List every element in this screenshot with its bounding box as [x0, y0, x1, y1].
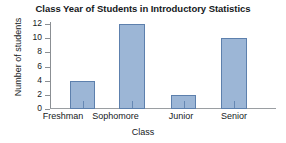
x-category-label-freshman: Freshman — [38, 111, 88, 121]
y-tick-8: 8 — [45, 52, 50, 53]
y-tick-label-8: 8 — [37, 47, 42, 56]
y-tick-label-4: 4 — [37, 76, 42, 85]
y-tick-label-2: 2 — [37, 90, 42, 99]
y-tick-0: 0 — [45, 109, 50, 110]
bar-senior — [221, 38, 247, 109]
bar-chart: Class Year of Students in Introductory S… — [0, 0, 286, 143]
y-tick-label-12: 12 — [33, 19, 42, 28]
x-category-label-sophomore: Sophomore — [87, 111, 144, 121]
y-tick-12: 12 — [45, 24, 50, 25]
plot-area: 0 2 4 6 8 10 12 — [50, 24, 276, 109]
y-tick-label-10: 10 — [33, 33, 42, 42]
y-tick-4: 4 — [45, 81, 50, 82]
bar-sophomore — [119, 24, 145, 109]
y-tick-6: 6 — [45, 67, 50, 68]
bar-stem-freshman — [83, 101, 84, 108]
bar-stem-sophomore — [132, 101, 133, 108]
x-axis-label: Class — [0, 127, 286, 137]
chart-title: Class Year of Students in Introductory S… — [0, 3, 286, 14]
x-category-label-senior: Senior — [205, 111, 263, 121]
y-tick-label-6: 6 — [37, 62, 42, 71]
y-tick-10: 10 — [45, 38, 50, 39]
bar-freshman — [70, 81, 95, 109]
bar-stem-junior — [184, 101, 185, 108]
bar-stem-senior — [234, 101, 235, 108]
bar-junior — [171, 95, 196, 109]
x-category-label-junior: Junior — [152, 111, 210, 121]
y-tick-2: 2 — [45, 95, 50, 96]
y-axis-label: Number of students — [13, 11, 23, 103]
